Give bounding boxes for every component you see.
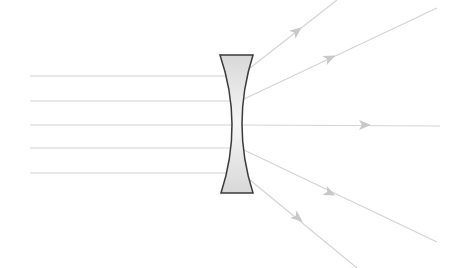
arrowhead-icon xyxy=(359,120,371,130)
refracted-ray xyxy=(238,125,440,126)
incident-rays xyxy=(30,76,238,173)
arrowhead-icon xyxy=(322,51,337,65)
refracted-ray xyxy=(244,150,437,242)
diagram-canvas xyxy=(0,0,470,268)
refracted-ray xyxy=(244,8,437,99)
arrowhead-icon xyxy=(289,23,305,38)
refracted-ray xyxy=(250,0,337,68)
refracted-rays xyxy=(238,0,440,268)
refracted-ray xyxy=(250,180,357,268)
lens-diagram xyxy=(0,0,470,268)
